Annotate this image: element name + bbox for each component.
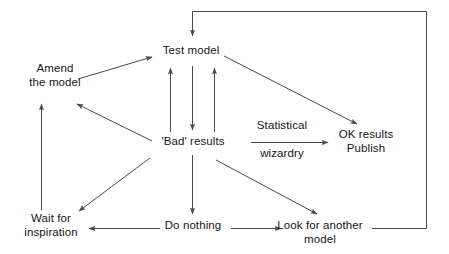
node-test-model: Test model bbox=[160, 44, 222, 58]
node-amend-the-model: Amend the model bbox=[14, 62, 96, 89]
edge-label-statistical: Statistical bbox=[246, 119, 318, 133]
edge-look-to-feedback-trunk bbox=[372, 12, 427, 229]
node-bad-results: 'Bad' results bbox=[160, 135, 226, 149]
node-look-for-another-model: Look for another model bbox=[272, 219, 368, 246]
node-ok-results-publish: OK results Publish bbox=[330, 128, 402, 155]
edge-bad-to-look bbox=[216, 160, 317, 214]
node-wait-for-inspiration: Wait for inspiration bbox=[10, 212, 92, 239]
node-do-nothing: Do nothing bbox=[162, 219, 224, 233]
edge-feedback-to-test-model bbox=[193, 12, 427, 37]
edge-label-wizardry: wizardry bbox=[246, 147, 318, 161]
diagram-canvas: Test model Amend the model 'Bad' results… bbox=[0, 0, 449, 254]
edge-test-model-to-ok-results bbox=[224, 56, 357, 124]
edge-bad-to-amend bbox=[77, 104, 152, 141]
edge-bad-to-wait bbox=[79, 158, 150, 211]
